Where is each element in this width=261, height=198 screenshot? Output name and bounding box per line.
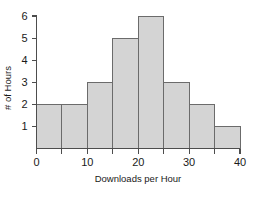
histogram-bar [189,104,214,148]
y-tick-label: 6 [21,10,27,22]
histogram-chart: 010203040 123456 Downloads per Hour # of… [0,0,261,198]
y-tick-label: 3 [21,76,27,88]
x-axis-tick-labels: 010203040 [33,156,246,168]
histogram-bar [37,104,62,148]
histogram-bar [164,82,189,148]
x-tick-label: 10 [81,156,93,168]
x-axis-title: Downloads per Hour [95,173,182,184]
x-tick-label: 40 [234,156,246,168]
x-tick-label: 0 [33,156,39,168]
y-tick-label: 5 [21,32,27,44]
y-axis-ticks [32,16,37,126]
x-tick-label: 30 [183,156,195,168]
y-tick-label: 4 [21,54,27,66]
x-tick-label: 20 [132,156,144,168]
histogram-bar [87,82,112,148]
histogram-bar [62,104,87,148]
y-axis-title: # of Hours [2,66,13,110]
x-axis-ticks [37,149,241,154]
y-axis-tick-labels: 123456 [21,10,27,132]
y-tick-label: 2 [21,98,27,110]
histogram-bar [215,126,240,148]
y-tick-label: 1 [21,120,27,132]
histogram-bar [138,16,163,149]
histogram-bar [113,38,138,148]
chart-canvas: 010203040 123456 Downloads per Hour # of… [0,0,261,198]
bars-group [37,16,241,149]
